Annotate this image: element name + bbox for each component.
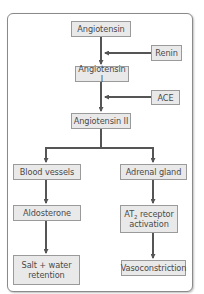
arrow-to-blood-vessels xyxy=(46,128,101,162)
node-angiotensin: Angiotensin xyxy=(71,21,131,37)
node-ace: ACE xyxy=(151,90,180,105)
node-blood-vessels: Blood vessels xyxy=(13,164,81,180)
node-angiotensin-i: Angiotensin I xyxy=(75,66,129,82)
node-vasoconstriction: Vasoconstriction xyxy=(121,260,186,276)
at2-label: AT2 receptor activation xyxy=(123,209,175,229)
node-salt-water-retention: Salt + water retention xyxy=(13,255,80,285)
node-at2-receptor-activation: AT2 receptor activation xyxy=(120,205,178,233)
at2-prefix: AT xyxy=(124,209,134,219)
node-angiotensin-ii: Angiotensin II xyxy=(71,113,131,129)
arrow-to-adrenal-gland xyxy=(101,148,153,162)
node-adrenal-gland: Adrenal gland xyxy=(120,164,187,180)
node-renin: Renin xyxy=(151,45,182,61)
node-aldosterone: Aldosterone xyxy=(13,205,81,221)
at2-suffix: receptor activation xyxy=(129,209,173,229)
